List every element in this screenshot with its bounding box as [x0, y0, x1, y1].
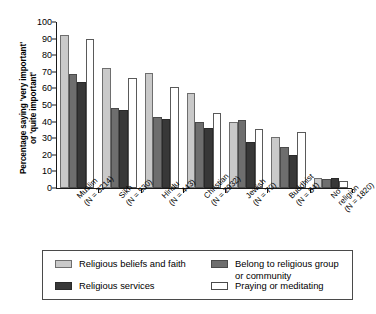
y-tick-label: 0 — [22, 183, 56, 193]
bar — [204, 128, 213, 188]
bar — [86, 39, 95, 188]
bar-group — [141, 22, 183, 188]
bar — [289, 155, 298, 188]
bar — [162, 119, 171, 188]
legend-label: Religious beliefs and faith — [79, 258, 186, 270]
bar — [128, 78, 137, 188]
legend-swatch — [211, 260, 228, 268]
chart-legend: Religious beliefs and faithBelong to rel… — [42, 250, 353, 300]
y-tick-label: 50 — [22, 100, 56, 110]
bar — [246, 142, 255, 188]
y-tick-label: 20 — [22, 150, 56, 160]
legend-swatch — [55, 260, 72, 268]
bar — [69, 74, 78, 188]
bar — [119, 110, 128, 188]
legend-item: Religious services — [55, 280, 155, 292]
legend-label: Praying or meditating — [235, 280, 324, 292]
legend-swatch — [55, 282, 72, 290]
y-tick-label: 40 — [22, 117, 56, 127]
legend-item: Belong to religious group or community — [211, 258, 339, 281]
bar — [280, 147, 289, 189]
bar-group — [225, 22, 267, 188]
bar-group — [56, 22, 98, 188]
y-tick-label: 100 — [22, 17, 56, 27]
y-tick-label: 60 — [22, 83, 56, 93]
bar — [145, 73, 154, 188]
bar-group — [98, 22, 140, 188]
legend-swatch — [211, 282, 228, 290]
y-tick-label: 10 — [22, 166, 56, 176]
y-tick-label: 90 — [22, 34, 56, 44]
bar — [195, 122, 204, 188]
legend-item: Religious beliefs and faith — [55, 258, 186, 270]
bar-group — [183, 22, 225, 188]
y-tick-label: 70 — [22, 67, 56, 77]
y-tick-label: 80 — [22, 50, 56, 60]
plot-area: 0102030405060708090100 — [56, 22, 352, 189]
legend-label: Belong to religious group or community — [235, 258, 339, 281]
legend-label: Religious services — [79, 280, 155, 292]
bar — [77, 82, 86, 188]
y-tick-label: 30 — [22, 133, 56, 143]
bar-group — [267, 22, 309, 188]
bar — [153, 117, 162, 188]
bar — [170, 87, 179, 188]
bar — [271, 137, 280, 188]
legend-item: Praying or meditating — [211, 280, 324, 292]
bar — [111, 108, 120, 189]
bar — [60, 35, 69, 188]
bar — [322, 179, 331, 188]
bar-group — [310, 22, 352, 188]
